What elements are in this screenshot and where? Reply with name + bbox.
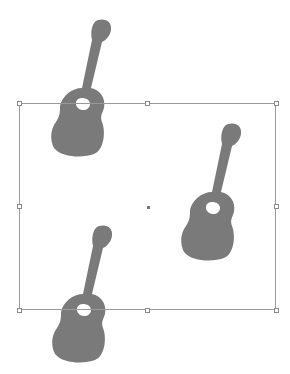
resize-handle-middle-right[interactable] <box>274 204 279 209</box>
drawing-canvas[interactable] <box>0 0 290 374</box>
resize-handle-bottom-right[interactable] <box>274 308 279 313</box>
resize-handle-top-center[interactable] <box>145 101 150 106</box>
resize-handle-bottom-center[interactable] <box>145 308 150 313</box>
resize-handle-middle-left[interactable] <box>17 204 22 209</box>
resize-handle-top-left[interactable] <box>17 101 22 106</box>
selection-center-point <box>147 206 150 209</box>
resize-handle-top-right[interactable] <box>274 101 279 106</box>
resize-handle-bottom-left[interactable] <box>17 308 22 313</box>
